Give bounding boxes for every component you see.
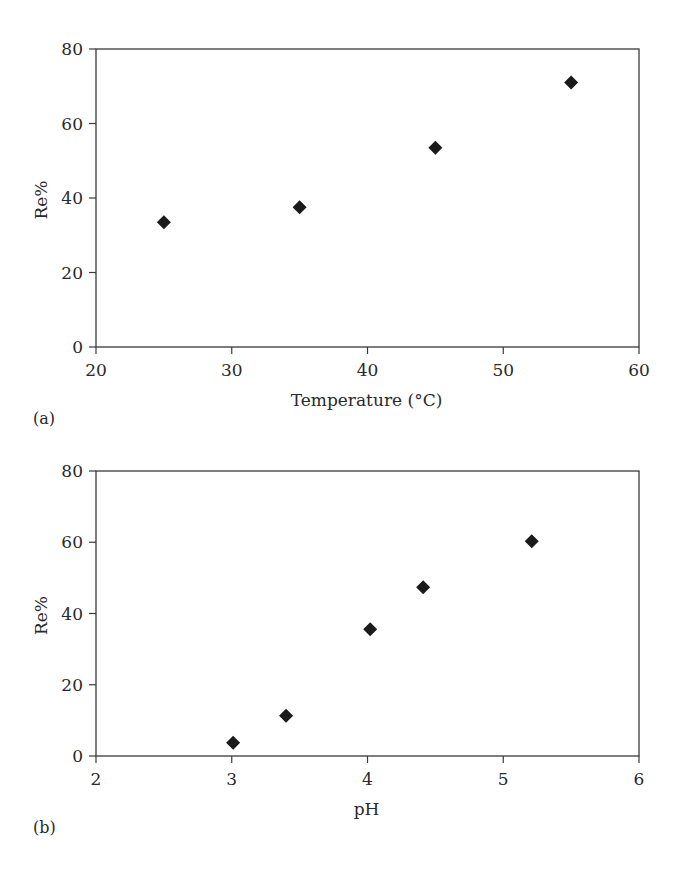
data-point-diamond-icon xyxy=(416,580,430,594)
y-tick-label: 40 xyxy=(61,188,83,208)
panel-label: (b) xyxy=(33,818,56,837)
y-tick-label: 0 xyxy=(72,337,83,357)
y-tick-label: 20 xyxy=(61,675,83,695)
y-axis-label: Re% xyxy=(31,596,51,635)
data-point-diamond-icon xyxy=(525,534,539,548)
chart-panel-a: 0204060802030405060Temperature (°C)Re%(a… xyxy=(31,39,650,428)
y-tick-label: 60 xyxy=(61,114,83,134)
x-axis-label: pH xyxy=(354,799,380,819)
x-tick-label: 60 xyxy=(628,360,650,380)
data-point-diamond-icon xyxy=(428,141,442,155)
data-point-diamond-icon xyxy=(157,215,171,229)
data-point-diamond-icon xyxy=(363,622,377,636)
y-tick-label: 20 xyxy=(61,263,83,283)
x-tick-label: 2 xyxy=(91,769,102,789)
y-tick-label: 60 xyxy=(61,532,83,552)
x-tick-label: 5 xyxy=(498,769,509,789)
x-tick-label: 40 xyxy=(357,360,379,380)
data-point-diamond-icon xyxy=(226,736,240,750)
data-point-diamond-icon xyxy=(564,76,578,90)
plot-frame xyxy=(96,471,639,756)
panel-label: (a) xyxy=(33,409,55,428)
y-tick-label: 40 xyxy=(61,604,83,624)
x-tick-label: 6 xyxy=(634,769,645,789)
x-tick-label: 30 xyxy=(221,360,243,380)
plot-frame xyxy=(96,49,639,347)
y-tick-label: 80 xyxy=(61,39,83,59)
y-axis-label: Re% xyxy=(31,180,51,219)
data-point-diamond-icon xyxy=(293,200,307,214)
y-tick-label: 80 xyxy=(61,461,83,481)
data-point-diamond-icon xyxy=(279,709,293,723)
x-tick-label: 3 xyxy=(226,769,237,789)
x-tick-label: 4 xyxy=(362,769,373,789)
x-axis-label: Temperature (°C) xyxy=(291,390,443,410)
y-tick-label: 0 xyxy=(72,746,83,766)
scatter-figure: 0204060802030405060Temperature (°C)Re%(a… xyxy=(0,0,676,879)
x-tick-label: 20 xyxy=(85,360,107,380)
figure: 0204060802030405060Temperature (°C)Re%(a… xyxy=(0,0,676,879)
chart-panel-b: 02040608023456pHRe%(b) xyxy=(31,461,644,837)
x-tick-label: 50 xyxy=(492,360,514,380)
